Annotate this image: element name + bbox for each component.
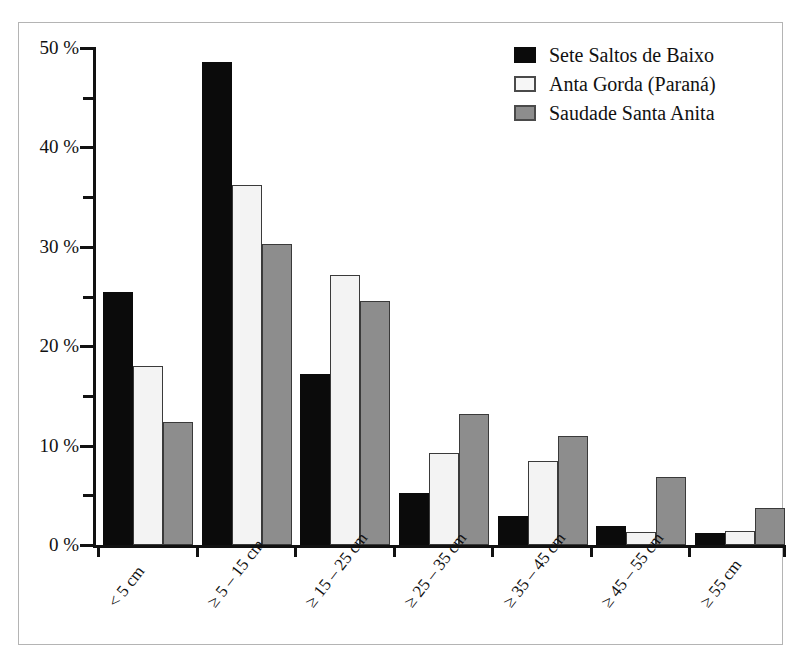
x-axis-tick (590, 545, 593, 557)
y-axis-tick-major (80, 146, 94, 149)
x-axis-tick (783, 545, 786, 557)
bar (163, 422, 193, 545)
bar (262, 244, 292, 545)
bar (596, 526, 626, 545)
y-axis-tick-minor (83, 196, 94, 199)
y-axis-tick-major (80, 47, 94, 50)
y-axis-tick-major (80, 544, 94, 547)
y-axis-tick-label: 20 % (1, 336, 79, 355)
legend-item: Saudade Santa Anita (514, 98, 716, 127)
y-axis-tick-label: 30 % (1, 237, 79, 256)
bar (558, 436, 588, 545)
bar (498, 516, 528, 545)
y-axis-tick-minor (83, 494, 94, 497)
y-axis-tick-major (80, 345, 94, 348)
y-axis-tick-label: 0 % (1, 535, 79, 554)
y-axis-tick-major (80, 445, 94, 448)
bar (725, 531, 755, 545)
x-axis-tick (294, 545, 297, 557)
legend-item-label: Anta Gorda (Paraná) (549, 74, 716, 94)
bar (695, 533, 725, 545)
x-axis-tick (196, 545, 199, 557)
x-axis-tick (491, 545, 494, 557)
legend-item: Sete Saltos de Baixo (514, 40, 716, 69)
black-square-icon (514, 47, 536, 63)
bar (202, 62, 232, 545)
bar (103, 292, 133, 545)
bar (330, 275, 360, 545)
y-axis-tick-minor (83, 395, 94, 398)
legend-item-label: Sete Saltos de Baixo (549, 45, 714, 65)
figure: 0 %10 %20 %30 %40 %50 % < 5 cm≥ 5 – 15 c… (0, 0, 801, 665)
bar (133, 366, 163, 545)
y-axis-tick-label: 10 % (1, 436, 79, 455)
y-axis-tick-label: 50 % (1, 38, 79, 57)
bar (360, 301, 390, 545)
x-axis-tick (393, 545, 396, 557)
bar (232, 185, 262, 545)
legend-item: Anta Gorda (Paraná) (514, 69, 716, 98)
y-axis-tick-label: 40 % (1, 137, 79, 156)
bar (300, 374, 330, 545)
y-axis-tick-major (80, 246, 94, 249)
bar (459, 414, 489, 545)
x-axis-tick (688, 545, 691, 557)
bar (399, 493, 429, 545)
x-axis-tick (97, 545, 100, 557)
y-axis-tick-minor (83, 296, 94, 299)
legend-item-label: Saudade Santa Anita (549, 103, 715, 123)
bar (755, 508, 785, 545)
grey-square-icon (514, 105, 536, 121)
chart-legend: Sete Saltos de BaixoAnta Gorda (Paraná)S… (514, 40, 716, 127)
white-square-icon (514, 76, 536, 92)
y-axis-tick-minor (83, 97, 94, 100)
